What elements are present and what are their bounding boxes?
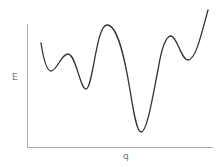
energy-chart (0, 0, 223, 167)
y-axis-label: E (12, 72, 18, 82)
energy-curve (41, 10, 208, 132)
x-axis-label: q (123, 151, 129, 161)
